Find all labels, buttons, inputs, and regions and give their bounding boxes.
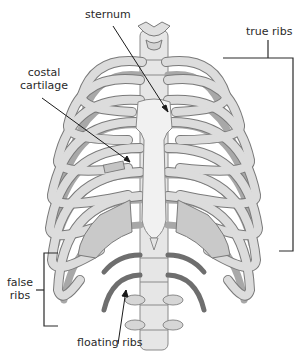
rib-cage-diagram: sternum true ribs costal cartilage false… [0, 0, 307, 355]
label-sternum: sternum [85, 8, 131, 21]
label-costal-cartilage: costal cartilage [16, 66, 72, 92]
label-floating-ribs: floating ribs [77, 336, 143, 349]
label-costal-line2: cartilage [16, 79, 72, 92]
rib-cage-illustration [0, 0, 307, 355]
label-false-ribs: false ribs [4, 276, 36, 302]
label-costal-line1: costal [16, 66, 72, 79]
label-false-line2: ribs [4, 289, 36, 302]
label-false-line1: false [4, 276, 36, 289]
label-true-ribs: true ribs [246, 25, 292, 38]
